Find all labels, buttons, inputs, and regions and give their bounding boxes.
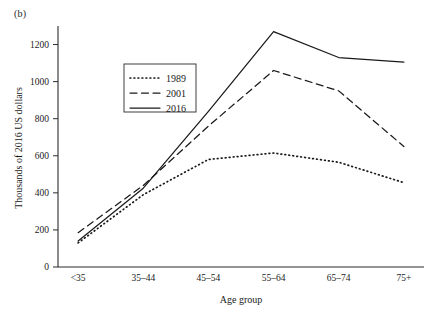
x-tick-label: 65–74 <box>327 273 351 283</box>
chart-legend: 198920012016 <box>124 64 196 114</box>
x-tick-label: <35 <box>71 273 86 283</box>
x-tick-label: 55–64 <box>262 273 286 283</box>
y-tick-label: 1200 <box>30 40 49 50</box>
x-axis-ticks: <3535–4445–5455–6465–7475+ <box>71 273 412 283</box>
y-tick-label: 200 <box>35 225 50 235</box>
y-tick-label: 800 <box>35 114 50 124</box>
y-tick-label: 0 <box>44 262 49 272</box>
data-series-group <box>78 32 404 243</box>
y-axis-title: Thousands of 2016 US dollars <box>13 87 24 209</box>
legend-label-2016: 2016 <box>166 103 186 114</box>
x-tick-label: 35–44 <box>131 273 155 283</box>
y-axis-ticks: 020040060080010001200 <box>30 40 58 272</box>
legend-label-2001: 2001 <box>166 88 186 99</box>
x-axis-title: Age group <box>220 294 263 305</box>
series-line-2016 <box>78 32 404 241</box>
x-tick-label: 75+ <box>396 273 411 283</box>
line-chart: 020040060080010001200 <3535–4445–5455–64… <box>0 0 438 312</box>
y-tick-label: 400 <box>35 188 50 198</box>
y-tick-label: 1000 <box>30 77 49 87</box>
y-tick-label: 600 <box>35 151 50 161</box>
figure-panel: (b) 020040060080010001200 <3535–4445–545… <box>0 0 438 312</box>
legend-label-1989: 1989 <box>166 73 186 84</box>
x-tick-label: 45–54 <box>197 273 221 283</box>
axes-group <box>58 26 424 267</box>
